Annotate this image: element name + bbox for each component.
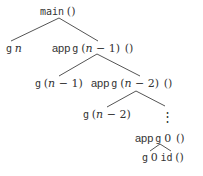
node-g-n: g n	[6, 42, 22, 55]
edge-main-to-app1	[59, 18, 98, 41]
minus-sign: −	[93, 42, 109, 55]
edge-app0-to-g0-right	[160, 144, 171, 151]
fn-id: id	[161, 152, 173, 163]
unit-arg: ()	[175, 151, 184, 164]
var-n: n	[124, 77, 131, 90]
unit-arg: ()	[67, 5, 76, 18]
unit-arg: ()	[176, 132, 185, 145]
node-g-0-id: g 0 id ()	[142, 151, 184, 164]
fn-g: g	[35, 78, 41, 89]
fn-g: g	[6, 43, 12, 54]
node-app-g-0: appg 0 ()	[135, 132, 184, 145]
edge-app2-to-ellipsis	[136, 91, 165, 106]
fn-g: g	[155, 133, 161, 144]
var-n: n	[15, 42, 22, 55]
unit-arg: ()	[164, 77, 173, 90]
paren-close: )	[126, 108, 130, 121]
edge-app2-to-gn2	[107, 91, 136, 107]
edge-app0-to-g0-left	[150, 144, 160, 151]
vertical-ellipsis: ⋮	[161, 109, 174, 125]
paren-close: )	[155, 77, 159, 90]
var-n: n	[85, 42, 92, 55]
minus-sign: −	[55, 77, 71, 90]
unit-arg: ()	[125, 42, 134, 55]
literal-0: 0	[151, 151, 158, 164]
paren-close: )	[116, 42, 120, 55]
literal-0: 0	[164, 132, 171, 145]
fn-main: main	[40, 6, 64, 17]
literal-2: 2	[148, 77, 155, 90]
app-keyword: app	[135, 132, 153, 144]
fn-g: g	[111, 78, 117, 89]
minus-sign: −	[103, 108, 119, 121]
edge-main-to-gn	[11, 18, 59, 41]
fn-g: g	[83, 109, 89, 120]
app-keyword: app	[52, 42, 70, 54]
node-app-g-n-minus-2: appg (n − 2) ()	[91, 77, 172, 90]
call-tree-diagram: main () g n appg (n − 1) () g (n − 1) ap…	[0, 0, 203, 176]
app-keyword: app	[91, 77, 109, 89]
minus-sign: −	[132, 77, 148, 90]
node-app-g-n-minus-1: appg (n − 1) ()	[52, 42, 133, 55]
paren-close: )	[78, 77, 82, 90]
edge-app1-to-gn1	[59, 54, 97, 76]
fn-g: g	[142, 152, 148, 163]
node-g-n-minus-1: g (n − 1)	[35, 77, 83, 90]
edge-app1-to-app2	[97, 54, 140, 76]
fn-g: g	[72, 43, 78, 54]
literal-1: 1	[109, 42, 116, 55]
node-main: main ()	[40, 5, 75, 18]
node-g-n-minus-2: g (n − 2)	[83, 108, 131, 121]
